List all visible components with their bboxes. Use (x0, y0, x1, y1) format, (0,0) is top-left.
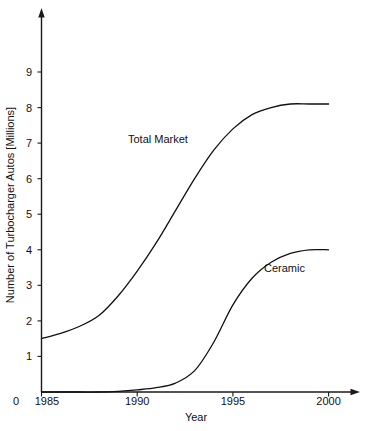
y-axis (38, 8, 44, 392)
y-tick-label-8: 8 (26, 102, 32, 114)
y-tick-label-2: 2 (26, 315, 32, 327)
series-annotations: Total Market Ceramic (128, 133, 305, 274)
y-tick-label-3: 3 (26, 279, 32, 291)
y-axis-tick-labels: 1 2 3 4 5 6 7 8 9 (26, 66, 32, 362)
x-axis-title: Year (185, 411, 208, 423)
y-tick-label-9: 9 (26, 66, 32, 78)
y-tick-label-4: 4 (26, 244, 32, 256)
y-tick-label-1: 1 (26, 350, 32, 362)
y-axis-title: Number of Turbocharger Autos [Millions] (4, 107, 16, 303)
origin-label: 0 (13, 395, 19, 407)
y-axis-arrowhead-icon (38, 8, 44, 18)
total-market-curve-label: Total Market (128, 133, 188, 145)
x-axis-arrowhead-icon (351, 389, 361, 395)
y-tick-label-7: 7 (26, 137, 32, 149)
x-tick-label-1985: 1985 (35, 395, 59, 407)
x-tick-label-1990: 1990 (125, 395, 149, 407)
x-tick-label-1995: 1995 (221, 395, 245, 407)
y-tick-label-5: 5 (26, 208, 32, 220)
x-axis-tick-labels: 1985 1990 1995 2000 (35, 395, 341, 407)
x-tick-label-2000: 2000 (316, 395, 340, 407)
chart-container: 1 2 3 4 5 6 7 8 9 0 1985 1990 1995 2000 … (0, 0, 367, 431)
ceramic-curve-label: Ceramic (264, 262, 305, 274)
y-tick-label-6: 6 (26, 173, 32, 185)
series-curves (42, 104, 329, 392)
turbocharger-autos-line-chart: 1 2 3 4 5 6 7 8 9 0 1985 1990 1995 2000 … (0, 0, 367, 431)
